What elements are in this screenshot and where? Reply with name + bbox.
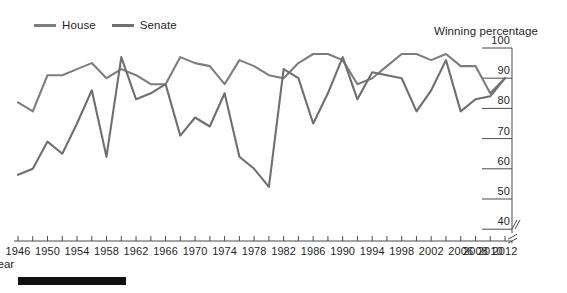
y-tick-label: 90 — [484, 65, 510, 76]
chart-container: House Senate Winning percentage 40506070… — [0, 0, 567, 293]
y-tick-label: 50 — [484, 186, 510, 197]
series-line-house — [18, 54, 505, 111]
y-tick-label: 40 — [484, 216, 510, 227]
y-tick-label: 80 — [484, 95, 510, 106]
y-tick-label: 70 — [484, 126, 510, 137]
bottom-black-bar — [18, 277, 126, 285]
axis-layer — [14, 48, 520, 243]
series-layer — [18, 54, 505, 187]
x-axis-caption-text: Year — [0, 258, 14, 270]
y-tick-label: 60 — [484, 156, 510, 167]
series-line-senate — [18, 57, 505, 187]
x-tick-label: 2012 — [487, 246, 523, 257]
x-axis-caption: Year — [0, 258, 567, 270]
y-tick-label: 100 — [484, 35, 510, 46]
